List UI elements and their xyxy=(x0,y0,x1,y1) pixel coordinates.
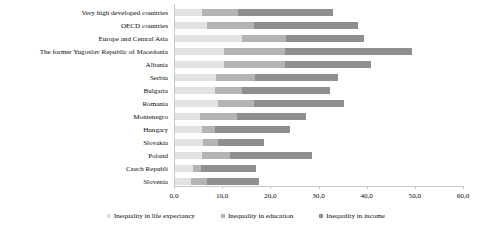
x-axis-tick xyxy=(415,186,416,189)
bar-segment-life-expectancy[interactable] xyxy=(175,61,224,68)
bar-row[interactable] xyxy=(175,61,371,68)
category-label: Hungary xyxy=(143,124,168,137)
bar-row[interactable] xyxy=(175,178,259,185)
category-label: Romania xyxy=(142,98,168,111)
bar-row[interactable] xyxy=(175,74,338,81)
legend-item[interactable]: Inequality in education xyxy=(221,212,293,220)
legend-swatch-icon xyxy=(319,214,323,218)
bar-segment-education[interactable] xyxy=(202,9,238,16)
bar-segment-life-expectancy[interactable] xyxy=(175,74,216,81)
bar-segment-life-expectancy[interactable] xyxy=(175,87,215,94)
category-label: The former Yugoslav Republic of Macedoni… xyxy=(40,46,168,59)
bar-segment-education[interactable] xyxy=(193,165,200,172)
x-axis-tick xyxy=(463,186,464,189)
category-label: Montenegro xyxy=(133,111,168,124)
bar-segment-life-expectancy[interactable] xyxy=(175,48,224,55)
legend-swatch-icon xyxy=(221,214,225,218)
bar-segment-income[interactable] xyxy=(254,100,345,107)
bar-row[interactable] xyxy=(175,152,312,159)
category-label: Poland xyxy=(148,150,168,163)
bar-segment-life-expectancy[interactable] xyxy=(175,165,193,172)
bar-segment-education[interactable] xyxy=(200,113,237,120)
bar-segment-life-expectancy[interactable] xyxy=(175,139,203,146)
bar-segment-life-expectancy[interactable] xyxy=(175,22,207,29)
bar-segment-life-expectancy[interactable] xyxy=(175,152,202,159)
x-axis-tick-label: 20,0 xyxy=(264,190,276,202)
category-label: Bulgaria xyxy=(144,85,168,98)
x-axis-tick xyxy=(319,186,320,189)
bar-segment-education[interactable] xyxy=(215,87,242,94)
bar-row[interactable] xyxy=(175,165,256,172)
bar-segment-income[interactable] xyxy=(237,113,305,120)
bar-segment-income[interactable] xyxy=(207,178,259,185)
x-axis-tick-label: 0,0 xyxy=(170,190,179,202)
bar-segment-income[interactable] xyxy=(215,126,290,133)
bar-segment-education[interactable] xyxy=(224,48,285,55)
x-axis-tick-label: 40,0 xyxy=(360,190,372,202)
bar-row[interactable] xyxy=(175,35,364,42)
bar-segment-life-expectancy[interactable] xyxy=(175,178,191,185)
x-axis-tick xyxy=(222,186,223,189)
bar-segment-income[interactable] xyxy=(255,74,338,81)
category-label: Albania xyxy=(146,59,168,72)
bar-segment-life-expectancy[interactable] xyxy=(175,126,202,133)
category-label: Slovenia xyxy=(143,176,168,189)
bar-segment-income[interactable] xyxy=(218,139,264,146)
category-label: Slovakia xyxy=(143,137,168,150)
bar-segment-life-expectancy[interactable] xyxy=(175,113,200,120)
plot-canvas xyxy=(174,4,464,186)
bar-row[interactable] xyxy=(175,126,290,133)
bar-segment-income[interactable] xyxy=(254,22,357,29)
bar-segment-life-expectancy[interactable] xyxy=(175,9,202,16)
bar-segment-life-expectancy[interactable] xyxy=(175,35,242,42)
bar-segment-education[interactable] xyxy=(218,100,253,107)
category-label: Very high developed countries xyxy=(82,7,168,20)
bar-row[interactable] xyxy=(175,113,306,120)
legend-item[interactable]: Inequality in life expectancy xyxy=(107,212,195,220)
bar-row[interactable] xyxy=(175,48,412,55)
bar-segment-education[interactable] xyxy=(207,22,254,29)
bar-segment-education[interactable] xyxy=(216,74,255,81)
x-axis-tick xyxy=(174,186,175,189)
x-axis-tick xyxy=(367,186,368,189)
legend-label: Inequality in education xyxy=(228,212,293,220)
bar-segment-education[interactable] xyxy=(202,152,230,159)
legend-item[interactable]: Inequality in income xyxy=(319,212,385,220)
category-label: Serbia xyxy=(150,72,168,85)
bar-segment-income[interactable] xyxy=(238,9,332,16)
x-axis-tick xyxy=(270,186,271,189)
legend-label: Inequality in life expectancy xyxy=(114,212,195,220)
stacked-bar-chart: Very high developed countriesOECD countr… xyxy=(0,0,492,237)
bar-segment-education[interactable] xyxy=(202,126,215,133)
bar-row[interactable] xyxy=(175,9,333,16)
x-axis-tick-label: 50,0 xyxy=(409,190,421,202)
bar-segment-income[interactable] xyxy=(285,61,370,68)
x-axis-tick-label: 30,0 xyxy=(312,190,324,202)
legend-label: Inequality in income xyxy=(326,212,385,220)
bar-segment-income[interactable] xyxy=(230,152,312,159)
category-label: Czech Republi xyxy=(126,163,168,176)
bar-segment-education[interactable] xyxy=(191,178,207,185)
bar-segment-income[interactable] xyxy=(286,35,364,42)
x-axis-tick-labels: 0,010,020,030,040,050,060,0 xyxy=(174,190,474,202)
bar-row[interactable] xyxy=(175,22,358,29)
bar-row[interactable] xyxy=(175,87,330,94)
plot-area: Very high developed countriesOECD countr… xyxy=(0,4,492,190)
bar-segment-income[interactable] xyxy=(242,87,330,94)
bar-segment-education[interactable] xyxy=(203,139,218,146)
category-label: OECD countries xyxy=(121,20,168,33)
category-axis-labels: Very high developed countriesOECD countr… xyxy=(0,4,172,186)
bar-segment-life-expectancy[interactable] xyxy=(175,100,218,107)
x-axis-tick-label: 10,0 xyxy=(216,190,228,202)
bar-row[interactable] xyxy=(175,139,264,146)
bar-segment-income[interactable] xyxy=(201,165,256,172)
x-axis-tick-label: 60,0 xyxy=(457,190,469,202)
legend-swatch-icon xyxy=(107,214,111,218)
bar-segment-income[interactable] xyxy=(285,48,412,55)
bar-segment-education[interactable] xyxy=(224,61,285,68)
bar-segment-education[interactable] xyxy=(242,35,285,42)
bar-row[interactable] xyxy=(175,100,344,107)
category-label: Europe and Central Asia xyxy=(98,33,168,46)
chart-legend: Inequality in life expectancyInequality … xyxy=(0,212,492,220)
